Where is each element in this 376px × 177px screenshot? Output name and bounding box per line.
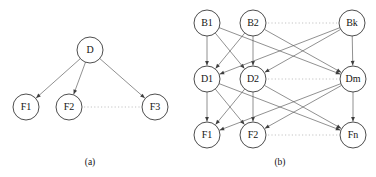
node-circle-F1[interactable] xyxy=(194,122,220,148)
edge-arrowhead xyxy=(336,124,341,128)
panel-b-ellipsis-group xyxy=(268,23,338,135)
node-circle-Fn[interactable] xyxy=(340,122,366,148)
edge-Dm-to-Fn xyxy=(351,92,355,122)
panel-a-node-group: DF1F2F3 xyxy=(13,37,168,120)
node-circle-B2[interactable] xyxy=(240,10,266,36)
node-circle-B1[interactable] xyxy=(194,10,220,36)
node-circle-D[interactable] xyxy=(77,37,103,63)
caption-panel-b: (b) xyxy=(274,157,285,168)
node-Bk[interactable]: Bk xyxy=(339,10,365,36)
diagram-canvas: DF1F2F3(a)B1B2BkD1D2DmF1F2Fn(b) xyxy=(0,0,376,177)
edge-arrowhead xyxy=(220,71,225,75)
panel-b: B1B2BkD1D2DmF1F2Fn(b) xyxy=(194,10,366,168)
node-circle-Bk[interactable] xyxy=(339,10,365,36)
edge-B1-to-D1 xyxy=(205,36,209,66)
node-B2[interactable]: B2 xyxy=(240,10,266,36)
node-circle-F1[interactable] xyxy=(13,94,39,120)
edge-arrowhead xyxy=(265,68,270,72)
panel-a: DF1F2F3(a) xyxy=(13,37,168,168)
edge-arrowhead xyxy=(336,68,341,72)
edge-arrowhead xyxy=(205,61,209,66)
node-circle-D2[interactable] xyxy=(240,66,266,92)
node-F2[interactable]: F2 xyxy=(240,122,266,148)
node-D1[interactable]: D1 xyxy=(194,66,220,92)
edge-arrowhead xyxy=(265,124,270,128)
panel-b-edge-group xyxy=(205,28,355,131)
node-circle-F2[interactable] xyxy=(240,122,266,148)
node-F1[interactable]: F1 xyxy=(194,122,220,148)
edge-arrowhead xyxy=(205,117,209,122)
node-Dm[interactable]: Dm xyxy=(340,66,366,92)
node-F3[interactable]: F3 xyxy=(142,94,168,120)
node-D2[interactable]: D2 xyxy=(240,66,266,92)
panel-a-edge-group xyxy=(36,59,145,99)
edge-arrowhead xyxy=(351,117,355,122)
edge-Bk-to-Dm xyxy=(351,36,355,66)
edge-line xyxy=(74,62,86,94)
edge-line xyxy=(100,59,145,99)
edge-arrowhead xyxy=(220,127,225,131)
node-circle-D1[interactable] xyxy=(194,66,220,92)
node-Fn[interactable]: Fn xyxy=(340,122,366,148)
edge-arrowhead xyxy=(73,89,77,94)
node-F2[interactable]: F2 xyxy=(56,94,82,120)
node-circle-F3[interactable] xyxy=(142,94,168,120)
node-circle-Dm[interactable] xyxy=(340,66,366,92)
edge-D1-to-F1 xyxy=(205,92,209,122)
caption-panel-a: (a) xyxy=(85,157,96,168)
node-F1[interactable]: F1 xyxy=(13,94,39,120)
edge-arrowhead xyxy=(351,61,355,66)
figure-root: DF1F2F3(a)B1B2BkD1D2DmF1F2Fn(b) xyxy=(0,0,376,177)
edge-D-to-F2 xyxy=(73,62,85,94)
edge-D-to-F3 xyxy=(100,59,145,99)
node-circle-F2[interactable] xyxy=(56,94,82,120)
node-B1[interactable]: B1 xyxy=(194,10,220,36)
node-D[interactable]: D xyxy=(77,37,103,63)
